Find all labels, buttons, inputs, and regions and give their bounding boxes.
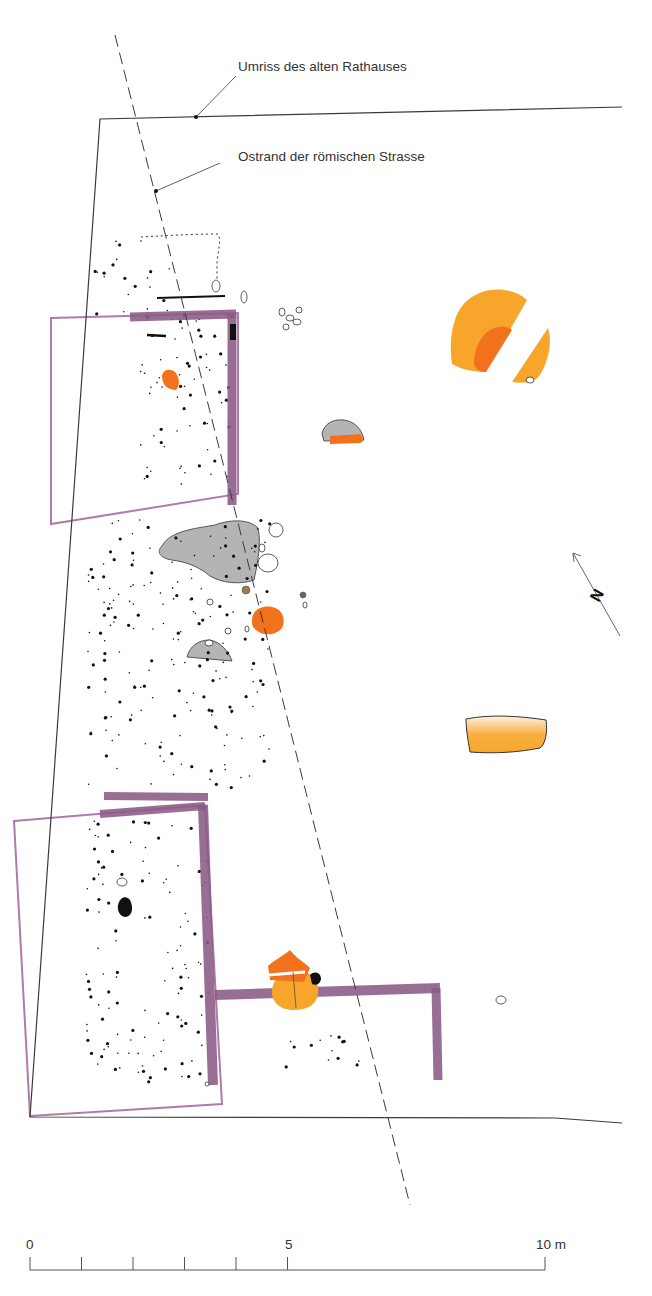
- find-dot: [207, 651, 210, 654]
- find-dot: [198, 961, 200, 963]
- find-dot: [252, 681, 254, 683]
- find-dot: [189, 394, 192, 397]
- find-dot: [230, 595, 232, 597]
- find-dot: [123, 277, 126, 280]
- find-dot: [97, 948, 99, 950]
- find-dot: [180, 631, 182, 633]
- stone-outline: [283, 324, 289, 330]
- find-dot: [119, 537, 122, 540]
- find-dot: [118, 520, 120, 522]
- find-dot: [143, 685, 146, 688]
- find-dot: [259, 519, 262, 522]
- find-dot: [86, 1039, 89, 1042]
- building-outline-line: [30, 107, 622, 1123]
- find-dot: [140, 709, 142, 711]
- find-dot: [129, 672, 131, 674]
- find-dot: [88, 783, 90, 785]
- find-dot: [133, 559, 135, 561]
- north-arrow-icon: N: [573, 553, 620, 636]
- find-dot: [143, 585, 145, 587]
- black-blob-lower: [118, 897, 132, 917]
- find-dot: [213, 459, 216, 462]
- find-dot: [158, 1022, 160, 1024]
- find-dot: [148, 669, 150, 671]
- find-dot: [133, 603, 135, 605]
- find-dot: [228, 706, 231, 709]
- find-dot: [187, 1075, 190, 1078]
- find-dot: [109, 603, 111, 605]
- find-dot: [164, 446, 166, 448]
- find-dot: [112, 740, 114, 742]
- find-dot: [197, 329, 200, 332]
- stone-outline: [205, 1082, 209, 1086]
- find-dot: [231, 712, 233, 714]
- find-dot: [181, 483, 183, 485]
- find-dot: [130, 1039, 132, 1041]
- find-dot: [201, 1045, 203, 1047]
- find-dot: [338, 1036, 341, 1039]
- find-dot: [219, 678, 221, 680]
- find-dot: [251, 669, 253, 671]
- find-dot: [118, 734, 120, 736]
- find-dot: [87, 888, 89, 890]
- find-dot: [159, 755, 161, 757]
- find-dot: [211, 714, 213, 716]
- find-dot: [103, 276, 105, 278]
- find-dot: [112, 523, 114, 525]
- stone-outline: [117, 878, 127, 886]
- find-dot: [224, 544, 227, 547]
- find-dot: [225, 677, 227, 679]
- find-dot: [97, 1063, 99, 1065]
- find-dot: [201, 619, 204, 622]
- find-dot: [206, 367, 208, 369]
- find-dot: [173, 774, 175, 776]
- find-dot: [93, 847, 96, 850]
- find-dot: [244, 638, 247, 641]
- find-dot: [95, 312, 98, 315]
- find-dot: [330, 1035, 332, 1037]
- leader-dot: [154, 189, 158, 193]
- find-dot: [195, 320, 197, 322]
- find-dot: [102, 884, 104, 886]
- find-dot: [180, 540, 182, 542]
- find-dot: [221, 402, 223, 404]
- find-dot: [153, 1055, 155, 1057]
- find-dot: [254, 551, 256, 553]
- find-dot: [215, 670, 217, 672]
- find-dot: [161, 742, 163, 744]
- find-dot: [171, 659, 173, 661]
- stone-outline: [286, 315, 294, 321]
- scale-label-5: 5: [285, 1238, 293, 1252]
- find-dot: [206, 354, 208, 356]
- find-dot: [140, 371, 142, 373]
- find-dot: [132, 584, 134, 586]
- find-dot: [141, 879, 144, 882]
- find-dot: [190, 597, 193, 600]
- find-dot: [88, 574, 90, 576]
- orange-cluster-top: [268, 950, 310, 982]
- find-dot: [185, 913, 187, 915]
- find-dot: [188, 365, 191, 368]
- find-dot: [177, 865, 179, 867]
- find-dot: [190, 765, 193, 768]
- find-dot: [131, 551, 134, 554]
- find-dot: [175, 594, 178, 597]
- find-dot: [104, 678, 107, 681]
- find-dot: [137, 1053, 139, 1055]
- find-dot: [199, 335, 202, 338]
- find-dot: [149, 393, 151, 395]
- find-dot: [129, 601, 131, 603]
- find-dot: [148, 916, 151, 919]
- find-dot: [210, 473, 212, 475]
- find-dot: [259, 679, 262, 682]
- find-dot: [165, 878, 167, 880]
- find-dot: [103, 1049, 105, 1051]
- brown-dot: [242, 586, 250, 594]
- find-dot: [198, 664, 201, 667]
- find-dot: [159, 746, 162, 749]
- find-dot: [193, 932, 196, 935]
- find-dot: [225, 575, 228, 578]
- stone-outline: [259, 544, 265, 552]
- orange-round: [252, 607, 284, 635]
- black-bar: [157, 296, 225, 298]
